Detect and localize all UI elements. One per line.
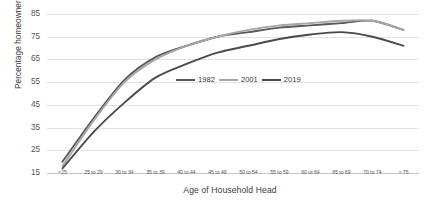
y-tick-label: 55 <box>14 78 40 86</box>
x-tick-label: 50 to 54 <box>233 170 264 175</box>
plot-area <box>47 14 419 173</box>
legend-swatch-icon <box>262 79 281 81</box>
x-tick-label: > 75 <box>388 170 419 175</box>
chart-legend: 198220012019 <box>176 76 301 84</box>
x-tick-label: 55 to 59 <box>264 170 295 175</box>
series-line-1982 <box>63 21 404 162</box>
x-tick-label: 60 to 64 <box>295 170 326 175</box>
y-tick-label: 35 <box>14 124 40 132</box>
y-tick-label: 45 <box>14 101 40 109</box>
legend-item-2019[interactable]: 2019 <box>262 76 301 84</box>
legend-item-1982[interactable]: 1982 <box>176 76 215 84</box>
legend-label: 2001 <box>241 76 258 84</box>
x-tick-label: 35 to 39 <box>140 170 171 175</box>
x-tick-label: 40 to 44 <box>171 170 202 175</box>
series-line-2001 <box>63 20 404 166</box>
legend-label: 2019 <box>284 76 301 84</box>
legend-swatch-icon <box>219 79 238 81</box>
x-tick-label: 30 to 34 <box>109 170 140 175</box>
x-tick-label: 45 to 49 <box>202 170 233 175</box>
y-tick-label: 85 <box>14 10 40 18</box>
x-tick-label: <25 <box>47 170 78 175</box>
legend-label: 1982 <box>198 76 215 84</box>
y-tick-label: 65 <box>14 55 40 63</box>
line-chart: Percentage homeowners 1525354555657585 <… <box>0 0 427 203</box>
y-tick-label: 25 <box>14 146 40 154</box>
legend-item-2001[interactable]: 2001 <box>219 76 258 84</box>
y-tick-label: 15 <box>14 169 40 177</box>
x-tick-label: 65 to 69 <box>326 170 357 175</box>
series-lines <box>47 14 419 173</box>
x-axis-title: Age of Household Head <box>40 185 420 195</box>
legend-swatch-icon <box>176 79 195 81</box>
x-tick-label: 70 to 74 <box>357 170 388 175</box>
series-line-2019 <box>63 32 404 168</box>
x-tick-label: 25 to 29 <box>78 170 109 175</box>
y-tick-label: 75 <box>14 33 40 41</box>
